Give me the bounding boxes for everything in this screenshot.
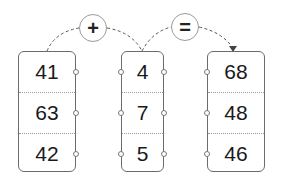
- connector-dot: [118, 110, 124, 116]
- connector-dot: [73, 69, 79, 75]
- connector-dot: [118, 69, 124, 75]
- cell: 46: [208, 133, 264, 174]
- connector-dot: [118, 151, 124, 157]
- cell: 7: [122, 92, 163, 133]
- column-addend-a: 41 63 42: [18, 51, 76, 172]
- cell: 41: [19, 52, 75, 92]
- plus-operator: +: [79, 14, 107, 42]
- connector-dot: [161, 110, 167, 116]
- connector-dot: [204, 110, 210, 116]
- cell: 4: [122, 52, 163, 92]
- cell: 68: [208, 52, 264, 92]
- connector-dot: [73, 110, 79, 116]
- column-addend-b: 4 7 5: [121, 51, 164, 172]
- cell: 48: [208, 92, 264, 133]
- connector-dot: [161, 69, 167, 75]
- connector-dot: [73, 151, 79, 157]
- equals-operator: =: [171, 13, 199, 41]
- cell: 63: [19, 92, 75, 133]
- connector-dot: [161, 151, 167, 157]
- cell: 5: [122, 133, 163, 174]
- cell: 42: [19, 133, 75, 174]
- connector-dot: [204, 69, 210, 75]
- connector-dot: [204, 151, 210, 157]
- column-sum: 68 48 46: [207, 51, 265, 172]
